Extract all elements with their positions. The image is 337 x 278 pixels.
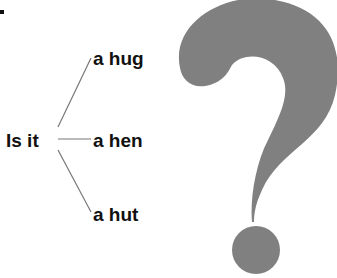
root-label: Is it (6, 131, 39, 150)
question-mark-icon (179, 0, 337, 274)
branch-label-hut: a hut (93, 205, 138, 224)
diagram-graphics (0, 0, 337, 278)
branch-lines (58, 58, 91, 212)
branch-label-hen: a hen (93, 131, 143, 150)
branch-label-hug: a hug (93, 49, 144, 68)
